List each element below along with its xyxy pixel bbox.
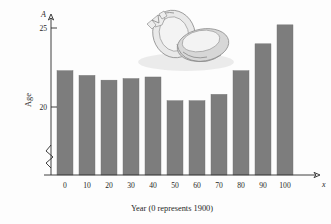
- y-axis-label: Age: [24, 93, 33, 107]
- bar: [233, 71, 249, 175]
- x-axis-label: Year (0 represents 1900): [131, 204, 213, 213]
- x-tick-label: 30: [127, 181, 135, 190]
- bar: [145, 77, 161, 175]
- x-tick-label: 0: [63, 181, 67, 190]
- x-tick-label: 60: [193, 181, 201, 190]
- bar: [101, 80, 117, 175]
- y-axis-symbol: A: [40, 10, 46, 19]
- y-tick-label: 20: [39, 103, 47, 112]
- bar: [189, 101, 205, 175]
- chart-container: 25 20 0 10 20 30 40 50 60 70 80 90 100 A…: [0, 0, 331, 224]
- x-tick-label: 80: [237, 181, 245, 190]
- bar: [211, 94, 227, 175]
- y-axis-break-icon: [46, 145, 53, 168]
- y-tick-label: 25: [39, 24, 47, 33]
- bar: [255, 44, 271, 175]
- bar: [57, 71, 73, 175]
- x-tick-label: 70: [215, 181, 223, 190]
- y-axis: [46, 14, 57, 175]
- bar: [79, 75, 95, 175]
- bar: [123, 79, 139, 175]
- bar: [277, 25, 293, 175]
- y-tick-labels: 25 20: [39, 24, 47, 112]
- x-tick-label: 90: [259, 181, 267, 190]
- bar: [167, 101, 183, 175]
- x-tick-label: 100: [279, 181, 291, 190]
- x-tick-label: 40: [149, 181, 157, 190]
- x-tick-label: 50: [171, 181, 179, 190]
- x-tick-label: 10: [83, 181, 91, 190]
- wedding-rings-illustration: [138, 5, 234, 71]
- bar-chart: 25 20 0 10 20 30 40 50 60 70 80 90 100 A…: [0, 0, 331, 224]
- x-tick-labels: 0 10 20 30 40 50 60 70 80 90 100: [63, 181, 291, 190]
- x-tick-label: 20: [105, 181, 113, 190]
- x-axis-symbol: x: [321, 180, 326, 189]
